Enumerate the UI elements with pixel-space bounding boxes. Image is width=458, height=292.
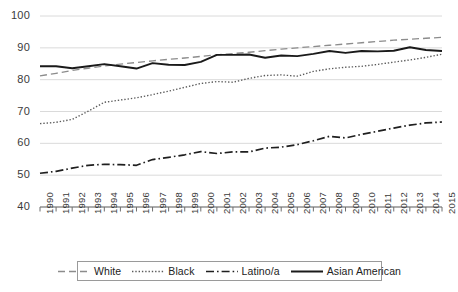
x-tick-label-2010: 2010 [366,192,377,214]
y-tick-label-80: 80 [4,73,30,85]
x-tick-label-2006: 2006 [301,192,312,214]
legend-label: White [94,265,121,277]
y-tick-label-50: 50 [4,168,30,180]
legend-label: Latino/a [242,265,280,277]
x-tick-label-2001: 2001 [221,192,232,214]
x-tick-label-1997: 1997 [157,192,168,214]
x-tick-label-2009: 2009 [350,192,361,214]
y-tick-label-90: 90 [4,41,30,53]
legend-item-white[interactable]: White [58,265,121,277]
series-line-white [40,37,442,76]
x-tick-label-2015: 2015 [446,192,457,214]
x-tick-label-2013: 2013 [414,192,425,214]
series-line-asian-american [40,47,442,68]
x-tick-label-2003: 2003 [253,192,264,214]
x-tick-label-2000: 2000 [205,192,216,214]
x-tick-label-1994: 1994 [108,192,119,214]
x-tick-label-2004: 2004 [269,192,280,214]
legend-item-asian-american[interactable]: Asian American [291,265,401,277]
x-tick-label-1991: 1991 [60,192,71,214]
x-tick-label-1996: 1996 [140,192,151,214]
x-tick-label-1992: 1992 [76,192,87,214]
x-tick-label-2007: 2007 [317,192,328,214]
legend-key-dashed-icon [58,267,90,276]
x-tick-label-1995: 1995 [124,192,135,214]
x-tick-label-2005: 2005 [285,192,296,214]
x-tick-label-1998: 1998 [173,192,184,214]
plot-area [0,0,458,292]
y-tick-label-60: 60 [4,136,30,148]
y-tick-label-40: 40 [4,200,30,212]
x-tick-label-2002: 2002 [237,192,248,214]
series-line-latino-a [40,122,442,173]
legend-item-latino-a[interactable]: Latino/a [206,265,280,277]
line-chart: 405060708090100 199019911992199319941995… [0,0,458,292]
y-tick-label-70: 70 [4,105,30,117]
legend-label: Asian American [327,265,401,277]
x-tick-label-2011: 2011 [382,193,393,214]
x-tick-label-2008: 2008 [333,192,344,214]
y-tick-label-100: 100 [4,9,30,21]
x-tick-label-1993: 1993 [92,192,103,214]
x-tick-label-2012: 2012 [398,192,409,214]
x-tick-label-1999: 1999 [189,192,200,214]
legend-label: Black [168,265,194,277]
x-tick-label-1990: 1990 [44,192,55,214]
legend-key-dotted-icon [132,267,164,276]
legend-key-dashdot-icon [206,267,238,276]
legend-item-black[interactable]: Black [132,265,194,277]
x-tick-label-2014: 2014 [430,192,441,214]
chart-legend: WhiteBlackLatino/aAsian American [77,261,382,281]
legend-key-solid-icon [291,267,323,276]
